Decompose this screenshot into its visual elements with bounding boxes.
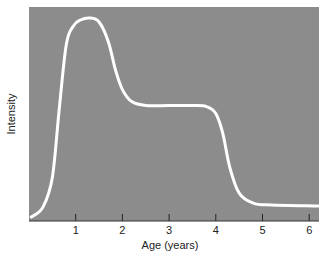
- y-axis-title: Intensity: [5, 93, 17, 134]
- intensity-age-chart: 123456 Age (years) Intensity: [0, 0, 321, 261]
- x-tick-label: 1: [73, 224, 79, 236]
- x-tick-label: 5: [259, 224, 265, 236]
- x-tick-label: 4: [213, 224, 219, 236]
- x-tick-label: 2: [119, 224, 125, 236]
- x-tick-label: 3: [166, 224, 172, 236]
- x-tick-label: 6: [306, 224, 312, 236]
- plot-area: [29, 7, 319, 221]
- x-axis-title: Age (years): [142, 239, 199, 251]
